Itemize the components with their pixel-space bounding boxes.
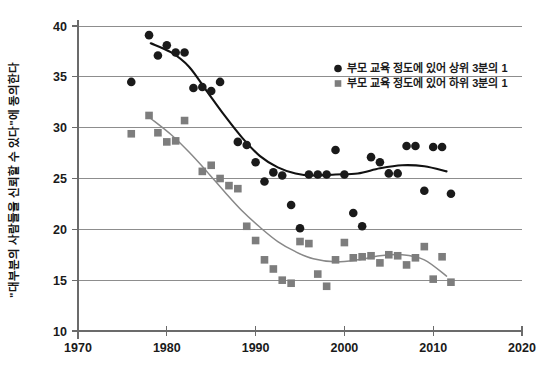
data-point-bottom-third <box>207 161 215 169</box>
data-point-top-third <box>438 143 447 152</box>
data-point-top-third <box>420 186 429 195</box>
data-point-bottom-third <box>314 270 322 278</box>
x-tick-label-1990: 1990 <box>242 341 270 355</box>
data-point-bottom-third <box>305 240 313 248</box>
legend-square-icon <box>335 80 342 87</box>
y-tick-label-25: 25 <box>53 172 67 186</box>
data-point-bottom-third <box>172 137 180 145</box>
data-point-bottom-third <box>349 254 357 262</box>
data-point-bottom-third <box>127 130 135 138</box>
data-point-bottom-third <box>270 265 278 273</box>
data-point-top-third <box>287 201 296 210</box>
data-point-top-third <box>305 170 314 179</box>
data-point-top-third <box>367 153 376 162</box>
data-point-bottom-third <box>341 239 349 247</box>
x-tick-label-2010: 2010 <box>419 341 447 355</box>
data-point-bottom-third <box>429 275 437 283</box>
data-point-bottom-third <box>287 279 295 287</box>
y-tick-label-20: 20 <box>53 223 67 237</box>
data-point-bottom-third <box>234 185 242 193</box>
data-point-bottom-third <box>367 252 375 260</box>
legend-circle-icon <box>334 65 342 73</box>
data-point-bottom-third <box>216 175 224 183</box>
data-point-bottom-third <box>252 237 260 245</box>
legend-label-top-third: 부모 교육 정도에 있어 상위 3분의 1 <box>347 61 508 74</box>
data-point-top-third <box>198 83 207 92</box>
legend-label-bottom-third: 부모 교육 정도에 있어 하위 3분의 1 <box>347 76 508 89</box>
x-tick-label-1970: 1970 <box>64 341 92 355</box>
data-point-bottom-third <box>332 256 340 264</box>
data-point-top-third <box>296 224 305 233</box>
data-point-bottom-third <box>261 256 269 264</box>
data-point-bottom-third <box>225 182 233 190</box>
data-point-top-third <box>207 87 216 96</box>
data-point-top-third <box>411 142 420 151</box>
data-point-top-third <box>189 84 198 93</box>
data-point-top-third <box>154 51 163 60</box>
data-point-top-third <box>278 171 287 180</box>
data-point-top-third <box>393 169 402 178</box>
y-tick-label-15: 15 <box>53 274 67 288</box>
data-point-top-third <box>251 158 260 167</box>
data-point-top-third <box>322 170 331 179</box>
data-point-top-third <box>127 78 136 87</box>
data-point-top-third <box>340 170 349 179</box>
data-point-top-third <box>171 48 180 57</box>
data-point-top-third <box>358 222 367 231</box>
data-point-bottom-third <box>163 138 171 146</box>
data-point-bottom-third <box>278 276 286 284</box>
data-point-bottom-third <box>358 253 366 261</box>
data-point-top-third <box>331 146 340 155</box>
data-point-top-third <box>376 158 385 167</box>
data-point-top-third <box>260 177 269 186</box>
data-point-bottom-third <box>154 129 162 137</box>
data-point-top-third <box>349 209 358 218</box>
data-point-bottom-third <box>181 117 189 125</box>
data-point-bottom-third <box>438 253 446 261</box>
data-point-bottom-third <box>199 168 207 176</box>
x-tick-label-1980: 1980 <box>153 341 181 355</box>
data-point-top-third <box>313 170 322 179</box>
data-point-top-third <box>385 169 394 178</box>
data-point-top-third <box>145 31 154 40</box>
chart-background <box>0 0 545 374</box>
y-tick-label-40: 40 <box>53 20 67 34</box>
y-tick-label-30: 30 <box>53 121 67 135</box>
data-point-top-third <box>269 168 278 177</box>
data-point-bottom-third <box>243 222 251 230</box>
y-axis-title: "대부분의 사람들을 신뢰할 수 있다"에 동의한다 <box>7 62 20 298</box>
data-point-bottom-third <box>394 252 402 260</box>
data-point-bottom-third <box>412 254 420 262</box>
data-point-top-third <box>429 143 438 152</box>
data-point-bottom-third <box>296 238 304 246</box>
data-point-bottom-third <box>145 112 153 120</box>
data-point-top-third <box>163 41 172 50</box>
data-point-bottom-third <box>323 282 331 290</box>
data-point-top-third <box>447 189 456 198</box>
scatter-chart: 197019801990200020102020 40353025201510 … <box>0 0 545 374</box>
data-point-bottom-third <box>385 251 393 259</box>
x-tick-label-2000: 2000 <box>330 341 358 355</box>
x-tick-label-2020: 2020 <box>508 341 536 355</box>
y-axis-title-label: "대부분의 사람들을 신뢰할 수 있다"에 동의한다 <box>7 62 20 298</box>
data-point-bottom-third <box>403 261 411 269</box>
data-point-top-third <box>180 48 189 57</box>
y-tick-label-10: 10 <box>53 325 67 339</box>
data-point-top-third <box>402 142 411 151</box>
data-point-bottom-third <box>447 278 455 286</box>
data-point-top-third <box>234 138 243 147</box>
data-point-top-third <box>242 141 251 150</box>
data-point-bottom-third <box>376 259 384 267</box>
data-point-bottom-third <box>421 243 429 251</box>
y-tick-label-35: 35 <box>53 70 67 84</box>
chart-page: 197019801990200020102020 40353025201510 … <box>0 0 545 374</box>
data-point-top-third <box>216 78 225 87</box>
